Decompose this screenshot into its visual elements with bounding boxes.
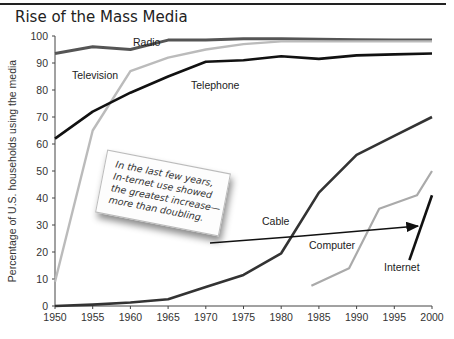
annotation-arrow [0,0,454,339]
arrow-icon [210,226,418,243]
